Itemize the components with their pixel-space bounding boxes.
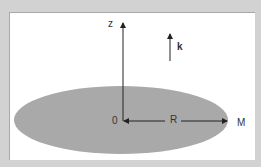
diagram-canvas [0, 0, 261, 167]
disk [14, 86, 228, 154]
unit-vector-k-label: k [177, 42, 183, 52]
z-axis-label: z [108, 19, 113, 29]
point-m-label: M [237, 118, 245, 128]
origin-label: 0 [112, 116, 118, 126]
radius-label: R [170, 115, 177, 125]
